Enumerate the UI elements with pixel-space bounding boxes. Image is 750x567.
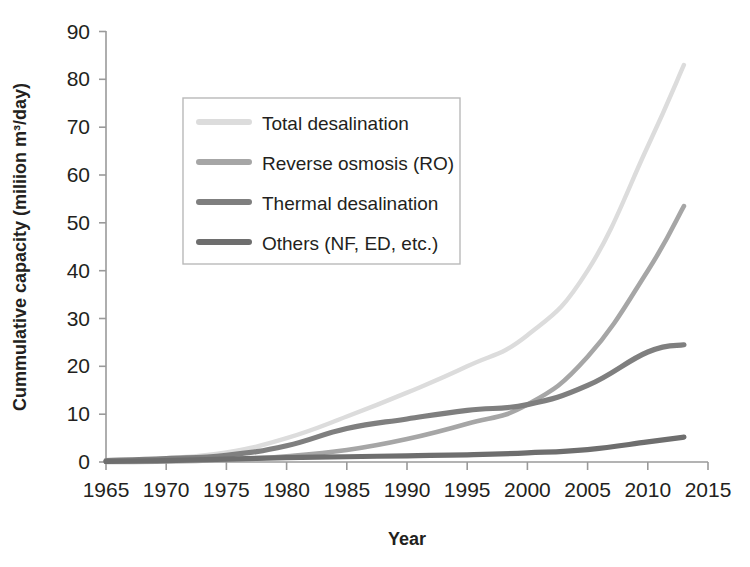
x-axis-title: Year (388, 529, 426, 549)
chart-figure: 0 10 20 30 40 50 60 70 80 90 19 (0, 0, 750, 567)
legend-label: Total desalination (262, 113, 409, 134)
y-tick-label: 10 (67, 402, 90, 425)
x-tick-label: 2005 (564, 478, 611, 501)
x-tick-label: 2015 (685, 478, 732, 501)
x-tick-label: 1970 (143, 478, 190, 501)
y-tick-label: 20 (67, 354, 90, 377)
x-tick-label: 1975 (203, 478, 250, 501)
x-tick-label: 1965 (83, 478, 130, 501)
y-tick-label: 80 (67, 67, 90, 90)
y-tick-label: 60 (67, 163, 90, 186)
y-axis-title: Cummulative capacity (miliion m³/day) (10, 83, 30, 411)
y-tick-label: 90 (67, 20, 90, 43)
y-tick-marks (99, 32, 106, 463)
y-tick-label: 40 (67, 259, 90, 282)
x-tick-label: 1985 (323, 478, 370, 501)
x-tick-labels: 1965 1970 1975 1980 1985 1990 1995 2000 … (83, 478, 732, 501)
y-tick-label: 70 (67, 115, 90, 138)
y-tick-label: 50 (67, 211, 90, 234)
y-tick-label: 30 (67, 307, 90, 330)
legend-label: Reverse osmosis (RO) (262, 153, 454, 174)
x-tick-label: 1995 (444, 478, 491, 501)
legend-label: Others (NF, ED, etc.) (262, 233, 438, 254)
y-tick-label: 0 (78, 450, 90, 473)
line-chart-svg: 0 10 20 30 40 50 60 70 80 90 19 (0, 0, 750, 567)
x-tick-label: 2010 (624, 478, 671, 501)
y-tick-labels: 0 10 20 30 40 50 60 70 80 90 (67, 20, 90, 474)
x-tick-label: 1980 (263, 478, 310, 501)
legend-label: Thermal desalination (262, 193, 438, 214)
x-tick-label: 1990 (384, 478, 431, 501)
legend: Total desalination Reverse osmosis (RO) … (183, 98, 460, 264)
x-tick-marks (106, 462, 708, 470)
x-tick-label: 2000 (504, 478, 551, 501)
